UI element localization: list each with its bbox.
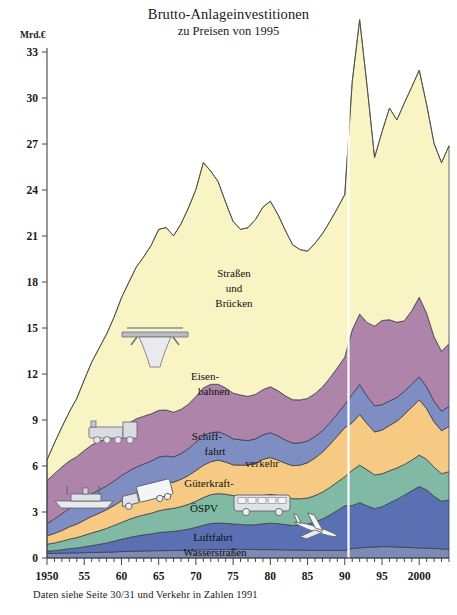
- y-tick-label: 3: [32, 506, 38, 518]
- chart-footnote: Daten siehe Seite 30/31 und Verkehr in Z…: [33, 589, 258, 600]
- bus-wheel: [242, 508, 249, 515]
- x-tick-label: 90: [339, 570, 351, 582]
- x-tick-label: 65: [153, 570, 165, 582]
- y-tick-label: 18: [27, 276, 39, 288]
- ship-superstructure: [71, 494, 101, 501]
- area-label-wasserstrassen: Wasserstraßen: [183, 546, 247, 558]
- y-tick-label: 30: [27, 92, 39, 104]
- area-label-strassen_2: und: [226, 282, 243, 294]
- y-tick-label: 21: [27, 230, 39, 242]
- area-layers: [47, 20, 449, 558]
- y-tick-label: 27: [27, 138, 39, 150]
- y-tick-label: 6: [32, 460, 38, 472]
- x-tick-label: 95: [376, 570, 388, 582]
- y-tick-label: 15: [27, 322, 39, 334]
- x-tick-label: 55: [78, 570, 90, 582]
- area-label-luftfahrt: Luftfahrt: [193, 531, 233, 543]
- y-tick-label: 24: [27, 184, 39, 196]
- area-label-strassen_1: Straßen: [217, 267, 251, 279]
- area-label-gueter_1: Güterkraft-: [184, 477, 234, 489]
- y-tick-label: 9: [32, 414, 38, 426]
- y-tick-label: 0: [32, 552, 38, 564]
- x-tick-label: 60: [116, 570, 128, 582]
- loco-wheel: [94, 437, 101, 444]
- bus-window: [258, 498, 266, 504]
- bus-window: [248, 498, 256, 504]
- loco-wheel: [104, 437, 111, 444]
- bus-wheel: [275, 508, 282, 515]
- area-label-strassen_3: Brücken: [215, 297, 253, 309]
- loco-chimney: [91, 421, 96, 427]
- loco-wheel: [127, 437, 134, 444]
- bus-window: [268, 498, 276, 504]
- ship-hull: [55, 501, 113, 508]
- x-tick-label: 85: [302, 570, 314, 582]
- x-tick-label: 1950: [36, 570, 59, 582]
- chart-page: Brutto-Anlageinvestitionen zu Preisen vo…: [0, 0, 457, 615]
- x-tick-label: 70: [190, 570, 202, 582]
- y-tick-label: 12: [27, 368, 39, 380]
- area-label-eisen_2: bahnen: [198, 385, 230, 397]
- x-tick-label: 75: [227, 570, 239, 582]
- x-tick-label: 2000: [408, 570, 431, 582]
- loco-wheel: [115, 437, 122, 444]
- x-tick-label: 80: [265, 570, 277, 582]
- bus-window: [238, 498, 246, 504]
- ship-funnel: [83, 488, 88, 494]
- y-tick-label: 33: [27, 46, 39, 58]
- bridge-deck: [122, 332, 188, 337]
- chart-svg: 0369121518212427303319505560657075808590…: [0, 0, 457, 615]
- bus-window: [278, 498, 286, 504]
- area-label-gueter_2: verkehr: [245, 457, 279, 469]
- loco-cab: [123, 422, 137, 438]
- area-label-schiff_1: Schiff-: [192, 430, 223, 442]
- stacked-area-chart: 0369121518212427303319505560657075808590…: [0, 0, 457, 615]
- area-label-schiff_2: fahrt: [205, 445, 226, 457]
- area-label-eisen_1: Eisen-: [191, 370, 219, 382]
- area-label-oespv: ÖSPV: [190, 502, 218, 514]
